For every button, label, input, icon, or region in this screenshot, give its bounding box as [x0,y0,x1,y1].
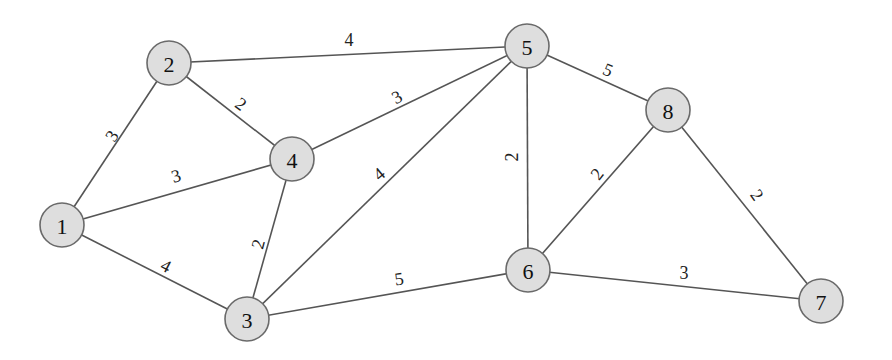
edge-weight-2-4: 2 [231,93,250,114]
node-1: 1 [40,203,84,247]
edge-5-8 [527,46,668,110]
weights-layer: 33424234525223 [101,30,768,290]
edge-weight-1-4: 3 [169,165,183,187]
edge-8-6 [528,110,668,270]
weighted-graph: 33424234525223 12345678 [0,0,892,360]
edge-weight-1-3: 4 [157,255,174,277]
node-5: 5 [505,24,549,68]
node-3: 3 [225,297,269,341]
edge-8-7 [668,110,821,301]
node-label: 7 [816,290,827,315]
node-6: 6 [506,248,550,292]
edge-weight-5-6: 2 [502,153,522,162]
edge-6-7 [528,270,821,301]
node-label: 2 [164,52,175,77]
edge-weight-5-8: 5 [600,59,616,81]
node-label: 5 [522,35,533,60]
node-label: 3 [242,308,253,333]
edge-1-3 [62,225,247,319]
nodes-layer: 12345678 [40,24,843,341]
node-label: 4 [287,148,298,173]
edge-4-5 [292,46,527,159]
edge-weight-1-2: 3 [101,127,123,145]
edge-5-6 [527,46,528,270]
node-4: 4 [270,137,314,181]
node-label: 8 [663,99,674,124]
node-7: 7 [799,279,843,323]
edge-weight-3-5: 4 [369,163,389,184]
node-2: 2 [147,41,191,85]
node-8: 8 [646,88,690,132]
edge-weight-2-5: 4 [345,30,354,50]
edge-weight-8-6: 2 [586,164,607,183]
edge-weight-8-7: 2 [746,186,768,205]
edge-weight-4-5: 3 [388,86,405,108]
edge-weight-4-3: 2 [247,237,269,251]
edge-2-4 [169,63,292,159]
edge-weight-6-7: 3 [680,263,689,283]
node-label: 1 [57,214,68,239]
edge-weight-3-6: 5 [393,268,405,289]
node-label: 6 [523,259,534,284]
